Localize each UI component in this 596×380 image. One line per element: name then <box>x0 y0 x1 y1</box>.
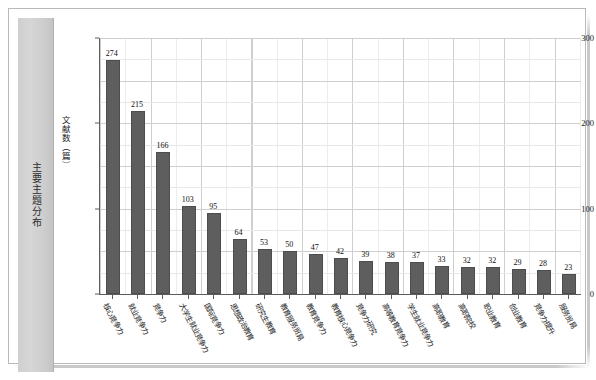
x-axis-tick-label: 高职院校 <box>456 301 478 330</box>
x-axis-tick-mark <box>137 294 138 299</box>
bar-value-label: 37 <box>412 251 420 260</box>
y-axis-tick-label: 0 <box>554 289 594 299</box>
bar-value-label: 53 <box>260 238 268 247</box>
x-axis-tick-label: 竞争力提升 <box>532 301 558 336</box>
bar[interactable] <box>537 270 551 294</box>
bar-value-label: 215 <box>131 100 143 109</box>
bar[interactable] <box>182 206 196 294</box>
bar-value-label: 28 <box>539 259 547 268</box>
bar-value-label: 42 <box>336 247 344 256</box>
bar[interactable] <box>106 60 120 294</box>
bar[interactable] <box>233 239 247 294</box>
y-axis-ticks <box>55 38 95 294</box>
bar[interactable] <box>385 262 399 294</box>
bar-value-label: 32 <box>488 256 496 265</box>
bar-value-label: 29 <box>514 258 522 267</box>
x-axis-tick-mark <box>365 294 366 299</box>
x-axis-tick-mark <box>543 294 544 299</box>
bar[interactable] <box>156 152 170 294</box>
x-axis-tick-mark <box>289 294 290 299</box>
x-axis-tick-mark <box>162 294 163 299</box>
bar[interactable] <box>258 249 272 294</box>
x-axis-tick-mark <box>467 294 468 299</box>
bar-value-label: 50 <box>285 240 293 249</box>
bar[interactable] <box>309 254 323 294</box>
bar[interactable] <box>435 266 449 294</box>
x-axis-tick-label: 竞争力研究 <box>355 301 381 336</box>
page-frame: 主要主题分布 文献数（篇） 0100200300274核心竞争力215就业竞争力… <box>8 8 586 364</box>
bar[interactable] <box>486 267 500 294</box>
y-axis-tick-label: 300 <box>554 33 594 43</box>
bar-value-label: 95 <box>209 202 217 211</box>
sidebar-band: 主要主题分布 <box>18 18 54 372</box>
x-axis-tick-label: 核心竞争力 <box>101 301 127 336</box>
bar-value-label: 39 <box>361 250 369 259</box>
x-axis-tick-mark <box>112 294 113 299</box>
x-axis-tick-mark <box>213 294 214 299</box>
bar-value-label: 274 <box>106 49 118 58</box>
y-axis-tick-label: 100 <box>554 204 594 214</box>
bar[interactable] <box>410 262 424 294</box>
y-axis-tick-mark <box>95 294 99 295</box>
x-axis-tick-label: 竞争力 <box>152 301 171 324</box>
bar[interactable] <box>334 258 348 294</box>
x-axis-tick-label: 职业教育 <box>481 301 503 330</box>
bar-chart: 文献数（篇） 0100200300274核心竞争力215就业竞争力166竞争力1… <box>55 18 594 372</box>
bar-value-label: 23 <box>564 263 572 272</box>
x-axis-tick-mark <box>416 294 417 299</box>
x-axis-tick-mark <box>518 294 519 299</box>
x-axis-tick-mark <box>239 294 240 299</box>
y-axis-tick-mark <box>95 208 99 209</box>
x-axis-tick-mark <box>492 294 493 299</box>
bar[interactable] <box>512 269 526 294</box>
bar-value-label: 166 <box>156 141 168 150</box>
x-axis-tick-label: 国际竞争力 <box>202 301 228 336</box>
x-axis-tick-mark <box>568 294 569 299</box>
bar[interactable] <box>359 261 373 294</box>
x-axis-tick-label: 创业教育 <box>507 301 529 330</box>
x-axis-tick-label: 教育竞争力 <box>304 301 330 336</box>
bar-value-label: 33 <box>437 255 445 264</box>
bar-value-label: 38 <box>387 251 395 260</box>
x-axis-tick-mark <box>441 294 442 299</box>
bar[interactable] <box>461 267 475 294</box>
x-axis-tick-mark <box>340 294 341 299</box>
sidebar-title: 主要主题分布 <box>28 162 43 228</box>
x-axis-tick-label: 研究生教育 <box>253 301 279 336</box>
bar-value-label: 103 <box>182 195 194 204</box>
bar-value-label: 47 <box>311 243 319 252</box>
bar-value-label: 64 <box>235 228 243 237</box>
y-axis-tick-mark <box>95 123 99 124</box>
bar-value-label: 32 <box>463 256 471 265</box>
x-axis-tick-label: 高职教育 <box>431 301 453 330</box>
x-axis-tick-label: 就业竞争力 <box>126 301 152 336</box>
bar[interactable] <box>131 111 145 294</box>
x-axis-tick-mark <box>264 294 265 299</box>
x-axis-tick-mark <box>391 294 392 299</box>
x-axis-tick-mark <box>188 294 189 299</box>
x-axis-tick-label: 思想政治教育 <box>228 301 257 342</box>
y-axis-tick-label: 200 <box>554 118 594 128</box>
y-axis-tick-mark <box>95 38 99 39</box>
x-axis-tick-label: 教育服务贸易 <box>279 301 308 342</box>
bar[interactable] <box>207 213 221 294</box>
bar[interactable] <box>283 251 297 294</box>
x-axis-tick-mark <box>315 294 316 299</box>
x-axis-tick-label: 服务贸易 <box>558 301 580 330</box>
